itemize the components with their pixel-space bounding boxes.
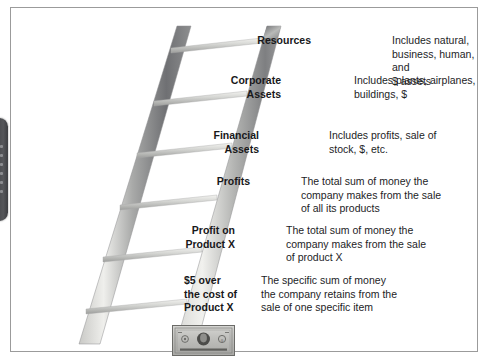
step-description-line: sale of one specific item	[261, 301, 431, 315]
screenshot-root: 0 Resources Includes natural, business, …	[0, 0, 490, 364]
step-description-line: company makes from the sale	[286, 238, 446, 252]
step-description-line: Includes plants, airplanes,	[354, 74, 490, 88]
step-description-line: the company retains from the	[261, 288, 431, 302]
step-description: The total sum of money the company makes…	[286, 224, 446, 265]
step-description: Includes profits, sale of stock, $, etc.	[329, 129, 461, 156]
step-label: Corporate Assets	[217, 74, 281, 101]
step-label-line: Profit on	[171, 224, 235, 238]
step-label: Profits	[186, 175, 250, 189]
step-description: The specific sum of money the company re…	[261, 274, 431, 315]
step-label-line: $5 over	[184, 274, 256, 288]
step-description-line: company makes from the sale	[301, 189, 461, 203]
step-description-line: The specific sum of money	[261, 274, 431, 288]
step-description: The total sum of money the company makes…	[301, 175, 461, 216]
step-label-line: Assets	[195, 143, 259, 157]
step-label: Financial Assets	[195, 129, 259, 156]
step-label-line: Product X	[171, 238, 235, 252]
step-description-line: buildings, $	[354, 88, 490, 102]
grip-dots-icon	[0, 145, 3, 193]
step-label-line: the cost of	[184, 288, 256, 302]
step-label: Profit on Product X	[171, 224, 235, 251]
step-label-line: Resources	[257, 34, 311, 46]
step-label-line: Financial	[195, 129, 259, 143]
step-description-line: The total sum of money the	[301, 175, 461, 189]
step-description-line: of all its products	[301, 202, 461, 216]
step-label-line: Product X	[184, 301, 256, 315]
ladder-left-rail	[79, 26, 191, 344]
step-description-line: Includes profits, sale of	[329, 129, 461, 143]
step-label: $5 over the cost of Product X	[184, 274, 256, 315]
step-description-line: The total sum of money the	[286, 224, 446, 238]
drag-handle[interactable]	[0, 118, 8, 221]
step-label-line: Corporate	[217, 74, 281, 88]
step-description-line: business, human, and	[392, 48, 490, 75]
step-label-line: Profits	[186, 175, 250, 189]
step-description-line: stock, $, etc.	[329, 143, 461, 157]
step-description-line: of product X	[286, 251, 446, 265]
content-panel: 0 Resources Includes natural, business, …	[10, 7, 478, 352]
step-description: Includes plants, airplanes, buildings, $	[354, 74, 490, 101]
step-description-line: Includes natural,	[392, 34, 490, 48]
step-label-line: Assets	[217, 88, 281, 102]
dollar-bill-image: 0	[172, 325, 235, 356]
step-label: Resources	[247, 34, 311, 48]
